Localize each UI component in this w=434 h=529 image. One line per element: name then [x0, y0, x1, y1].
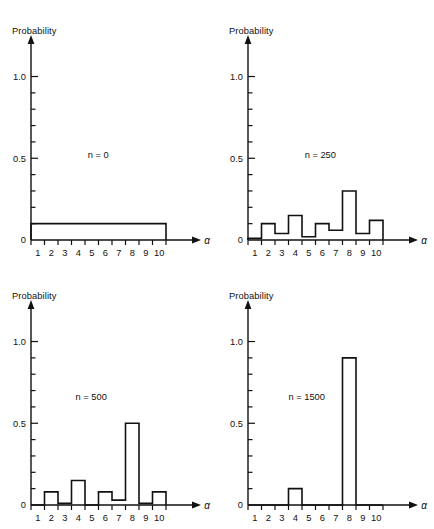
- y-tick-label: 1.0: [13, 337, 26, 347]
- x-tick-label: 2: [266, 513, 271, 523]
- x-tick-label: 10: [154, 513, 164, 523]
- plot-n-0: 00.51.012345678910αn = 0: [0, 0, 217, 264]
- y-tick-label: 1.0: [230, 72, 243, 82]
- x-axis-label: α: [204, 500, 210, 511]
- x-tick-label: 3: [62, 513, 67, 523]
- x-tick-label: 4: [76, 513, 81, 523]
- x-tick-label: 4: [293, 248, 298, 258]
- x-tick-label: 2: [49, 513, 54, 523]
- x-tick-label: 10: [371, 248, 381, 258]
- x-tick-label: 7: [333, 248, 338, 258]
- x-axis-arrow: [409, 237, 418, 244]
- plot-n-500: 00.51.012345678910αn = 500: [0, 265, 217, 529]
- x-tick-label: 8: [347, 513, 352, 523]
- histogram-outline: [248, 191, 383, 240]
- x-tick-label: 4: [293, 513, 298, 523]
- x-tick-label: 3: [279, 513, 284, 523]
- x-axis-arrow: [409, 502, 418, 509]
- y-axis-arrow: [245, 300, 252, 309]
- x-axis-arrow: [192, 502, 201, 509]
- x-tick-label: 1: [252, 248, 257, 258]
- panel-n-1500: Probability 00.51.012345678910αn = 1500: [217, 265, 434, 529]
- x-tick-label: 6: [103, 248, 108, 258]
- x-tick-label: 9: [143, 248, 148, 258]
- x-tick-label: 2: [266, 248, 271, 258]
- y-tick-label: 0: [238, 235, 243, 245]
- x-tick-label: 3: [279, 248, 284, 258]
- x-tick-label: 7: [116, 248, 121, 258]
- x-tick-label: 5: [89, 248, 94, 258]
- panel-n-0: Probability 00.51.012345678910αn = 0: [0, 0, 217, 264]
- x-axis-arrow: [192, 237, 201, 244]
- y-axis-arrow: [245, 35, 252, 44]
- y-axis-arrow: [28, 35, 35, 44]
- figure-canvas: Probability 00.51.012345678910αn = 0 Pro…: [0, 0, 434, 529]
- x-tick-label: 9: [360, 513, 365, 523]
- series-annotation: n = 1500: [289, 392, 325, 402]
- x-tick-label: 8: [130, 248, 135, 258]
- y-tick-label: 0: [21, 500, 26, 510]
- x-tick-label: 7: [333, 513, 338, 523]
- x-tick-label: 5: [89, 513, 94, 523]
- y-tick-label: 0.5: [13, 419, 26, 429]
- histogram-outline: [31, 423, 166, 505]
- y-tick-label: 1.0: [230, 337, 243, 347]
- x-tick-label: 7: [116, 513, 121, 523]
- x-axis-label: α: [204, 235, 210, 246]
- x-tick-label: 5: [306, 248, 311, 258]
- x-axis-label: α: [421, 235, 427, 246]
- panel-n-500: Probability 00.51.012345678910αn = 500: [0, 265, 217, 529]
- histogram-outline: [31, 224, 166, 240]
- x-tick-label: 10: [154, 248, 164, 258]
- y-tick-label: 0.5: [230, 154, 243, 164]
- x-tick-label: 1: [252, 513, 257, 523]
- x-axis-label: α: [421, 500, 427, 511]
- x-tick-label: 9: [360, 248, 365, 258]
- x-tick-label: 1: [35, 513, 40, 523]
- y-tick-label: 0: [21, 235, 26, 245]
- histogram-outline: [248, 358, 383, 505]
- x-tick-label: 10: [371, 513, 381, 523]
- y-tick-label: 0.5: [13, 154, 26, 164]
- series-annotation: n = 500: [76, 392, 107, 402]
- x-tick-label: 6: [103, 513, 108, 523]
- x-tick-label: 8: [130, 513, 135, 523]
- y-axis-arrow: [28, 300, 35, 309]
- y-tick-label: 0.5: [230, 419, 243, 429]
- plot-n-250: 00.51.012345678910αn = 250: [217, 0, 434, 264]
- x-tick-label: 1: [35, 248, 40, 258]
- x-tick-label: 6: [320, 513, 325, 523]
- x-tick-label: 5: [306, 513, 311, 523]
- x-tick-label: 6: [320, 248, 325, 258]
- plot-n-1500: 00.51.012345678910αn = 1500: [217, 265, 434, 529]
- y-tick-label: 1.0: [13, 72, 26, 82]
- panel-n-250: Probability 00.51.012345678910αn = 250: [217, 0, 434, 264]
- series-annotation: n = 0: [88, 150, 109, 160]
- x-tick-label: 3: [62, 248, 67, 258]
- x-tick-label: 2: [49, 248, 54, 258]
- series-annotation: n = 250: [305, 150, 336, 160]
- x-tick-label: 8: [347, 248, 352, 258]
- y-tick-label: 0: [238, 500, 243, 510]
- x-tick-label: 9: [143, 513, 148, 523]
- x-tick-label: 4: [76, 248, 81, 258]
